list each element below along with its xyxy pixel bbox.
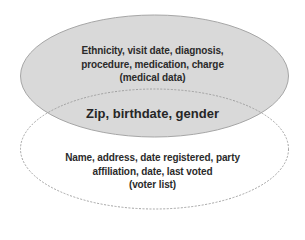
medical-data-line-1: Ethnicity, visit date, diagnosis, [0,44,305,58]
voter-list-line-1: Name, address, date registered, party [0,151,305,165]
voter-list-line-3: (voter list) [0,178,305,192]
voter-list-label: Name, address, date registered, party af… [0,151,305,192]
intersection-label: Zip, birthdate, gender [0,106,305,122]
medical-data-label: Ethnicity, visit date, diagnosis, proced… [0,44,305,85]
medical-data-line-2: procedure, medication, charge [0,58,305,72]
medical-data-line-3: (medical data) [0,71,305,85]
voter-list-line-2: affiliation, date, last voted [0,165,305,179]
